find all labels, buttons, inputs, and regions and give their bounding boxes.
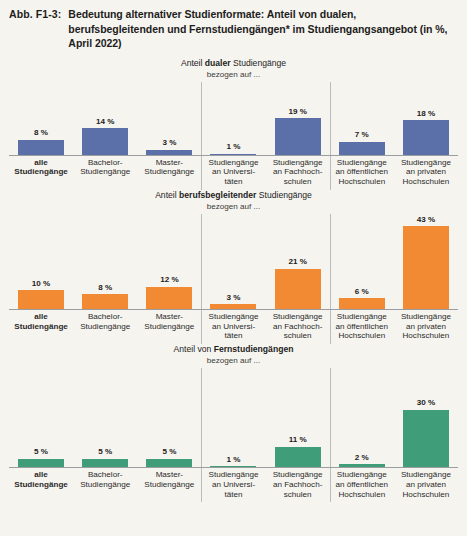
panel-title-strong: Fernstudiengängen xyxy=(214,344,294,354)
axis-category-label: Studiengängean Universi-täten xyxy=(201,156,265,187)
bar-column[interactable]: 8 % xyxy=(9,82,73,156)
bar-value-label: 7 % xyxy=(355,130,369,140)
bar-column[interactable]: 2 % xyxy=(330,368,394,468)
axis-category-line: Studiengänge xyxy=(202,158,264,168)
bar-column[interactable]: 30 % xyxy=(394,368,458,468)
bar-column[interactable]: 1 % xyxy=(201,82,265,156)
axis-category-line: Studiengänge xyxy=(138,480,200,490)
bar[interactable] xyxy=(82,294,128,310)
axis-category-label: Studiengängean Fachhoch-schulen xyxy=(266,156,330,187)
bar-wrapper: 7 % xyxy=(330,130,394,155)
bar-value-label: 1 % xyxy=(227,455,241,465)
bar[interactable] xyxy=(18,140,64,156)
bar-column[interactable]: 21 % xyxy=(266,214,330,310)
bar-value-label: 10 % xyxy=(32,279,50,289)
axis-category-label: Studiengängean privatenHochschulen xyxy=(394,468,458,499)
axis-category-line: an privaten xyxy=(395,480,457,490)
plot-area-fernstudium: 5 %5 %5 %1 %11 %2 %30 % xyxy=(9,368,458,468)
axis-category-label: alleStudiengänge xyxy=(9,468,73,499)
bar-wrapper: 12 % xyxy=(137,275,201,310)
figure-container: Abb. F1-3: Bedeutung alternativer Studie… xyxy=(0,0,467,536)
bar-column[interactable]: 3 % xyxy=(137,82,201,156)
bar-value-label: 12 % xyxy=(160,275,178,285)
axis-category-line: Studiengänge xyxy=(395,470,457,480)
axis-category-line: an Fachhoch- xyxy=(267,167,329,177)
bar[interactable] xyxy=(146,287,192,310)
axis-category-line: schulen xyxy=(267,177,329,187)
axis-category-line: an Fachhoch- xyxy=(267,480,329,490)
bar[interactable] xyxy=(403,120,449,155)
bar-column[interactable]: 8 % xyxy=(73,214,137,310)
bar-wrapper: 43 % xyxy=(394,215,458,310)
bar[interactable] xyxy=(403,226,449,310)
bar-column[interactable]: 11 % xyxy=(266,368,330,468)
bar-column[interactable]: 3 % xyxy=(201,214,265,310)
axis-category-label: Master-Studiengänge xyxy=(137,310,201,341)
axis-category-label: Studiengängean Fachhoch-schulen xyxy=(266,468,330,499)
bar-column[interactable]: 1 % xyxy=(201,368,265,468)
bar[interactable] xyxy=(403,410,449,469)
axis-category-label: alleStudiengänge xyxy=(9,156,73,187)
axis-category-line: Studiengänge xyxy=(395,158,457,168)
panel-title-berufsbegleitend: Anteil berufsbegleitender Studiengänge xyxy=(0,187,467,201)
panel-berufsbegleitend: Anteil berufsbegleitender Studiengänge b… xyxy=(0,187,467,341)
axis-category-label: Studiengängean öffentlichenHochschulen xyxy=(330,156,394,187)
bar-column[interactable]: 7 % xyxy=(330,82,394,156)
bar-value-label: 2 % xyxy=(355,453,369,463)
bar-column[interactable]: 14 % xyxy=(73,82,137,156)
axis-category-line: an privaten xyxy=(395,167,457,177)
axis-category-line: Master- xyxy=(138,312,200,322)
axis-category-line: an Universi- xyxy=(202,322,264,332)
panel-title-strong: dualer xyxy=(205,58,231,68)
bar-value-label: 8 % xyxy=(34,128,48,138)
bar[interactable] xyxy=(275,269,321,310)
axis-category-label: Bachelor-Studiengänge xyxy=(73,468,137,499)
bar-column[interactable]: 5 % xyxy=(9,368,73,468)
bar-group: 5 %5 %5 %1 %11 %2 %30 % xyxy=(9,368,458,468)
axis-category-line: an privaten xyxy=(395,322,457,332)
bar-column[interactable]: 19 % xyxy=(266,82,330,156)
figure-title: Bedeutung alternativer Studienformate: A… xyxy=(68,7,455,51)
bar-wrapper: 6 % xyxy=(330,287,394,310)
axis-category-line: Hochschulen xyxy=(331,490,393,500)
bar[interactable] xyxy=(275,118,321,155)
bar[interactable] xyxy=(339,142,385,156)
axis-category-label: Studiengängean Universi-täten xyxy=(201,310,265,341)
panel-dual: Anteil dualer Studiengänge bezogen auf .… xyxy=(0,55,467,187)
axis-category-line: täten xyxy=(202,490,264,500)
bar-column[interactable]: 5 % xyxy=(73,368,137,468)
bar[interactable] xyxy=(275,447,321,468)
bar-wrapper: 18 % xyxy=(394,109,458,156)
axis-category-label: Bachelor-Studiengänge xyxy=(73,156,137,187)
bar-wrapper: 5 % xyxy=(137,447,201,468)
axis-category-line: Studiengänge xyxy=(138,167,200,177)
bar-wrapper: 21 % xyxy=(266,257,330,309)
panel-subtitle-dual: bezogen auf ... xyxy=(0,69,467,82)
axis-category-line: Studiengänge xyxy=(10,167,72,177)
axis-category-label: Master-Studiengänge xyxy=(137,468,201,499)
axis-baseline xyxy=(9,155,458,156)
bar-column[interactable]: 10 % xyxy=(9,214,73,310)
bar-column[interactable]: 5 % xyxy=(137,368,201,468)
panel-title-fernstudium: Anteil von Fernstudiengängen xyxy=(0,341,467,355)
axis-baseline xyxy=(9,309,458,310)
bar[interactable] xyxy=(82,128,128,155)
axis-category-line: Studiengänge xyxy=(331,158,393,168)
bar-value-label: 43 % xyxy=(417,215,435,225)
bar-value-label: 5 % xyxy=(34,447,48,457)
bar-wrapper: 14 % xyxy=(73,117,137,156)
axis-labels-dual: alleStudiengängeBachelor-StudiengängeMas… xyxy=(9,156,458,187)
bar[interactable] xyxy=(18,290,64,310)
axis-category-line: schulen xyxy=(267,331,329,341)
bar-column[interactable]: 12 % xyxy=(137,214,201,310)
bar-column[interactable]: 43 % xyxy=(394,214,458,310)
plot-area-berufsbegleitend: 10 %8 %12 %3 %21 %6 %43 % xyxy=(9,214,458,310)
axis-category-line: Bachelor- xyxy=(74,158,136,168)
axis-category-line: Bachelor- xyxy=(74,470,136,480)
axis-category-line: Studiengänge xyxy=(331,470,393,480)
bar-wrapper: 10 % xyxy=(9,279,73,310)
bar-value-label: 5 % xyxy=(162,447,176,457)
bar-column[interactable]: 6 % xyxy=(330,214,394,310)
axis-category-line: schulen xyxy=(267,490,329,500)
bar-column[interactable]: 18 % xyxy=(394,82,458,156)
